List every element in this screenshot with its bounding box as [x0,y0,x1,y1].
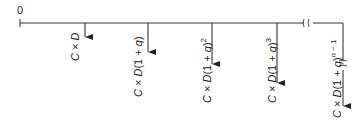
label-d: D [132,69,144,77]
label-c: C [69,53,81,61]
cashflow-label-1: C × D [70,33,81,61]
label-exponent: n − 1 [329,39,338,57]
cashflow-label-3: C × D(1 + q)2 [198,38,213,103]
timeline-svg [0,0,364,123]
cashflow-timeline-diagram: 0 C × D C × D(1 + q) C × D(1 + q)2 C × D… [0,0,364,123]
label-c: C [201,95,213,103]
label-exponent: 3 [264,38,273,42]
timeline-axis [20,19,343,27]
label-exponent: 2 [199,38,208,42]
label-d: D [266,75,278,83]
label-times: × [132,77,144,90]
cashflow-label-2: C × D(1 + q) [133,36,144,97]
label-times: × [331,98,343,111]
origin-label: 0 [17,4,23,16]
label-times: × [266,83,278,96]
label-c: C [132,89,144,97]
label-d: D [331,90,343,98]
label-d: D [201,75,213,83]
label-paren: (1 + q) [132,36,144,68]
cashflow-label-5: C × D(1 + q)n − 1 [328,39,343,118]
label-d: D [69,33,81,41]
cashflow-label-4: C × D(1 + q)3 [263,38,278,103]
label-times: × [201,83,213,96]
label-paren: (1 + q) [331,57,343,89]
label-c: C [266,95,278,103]
label-paren: (1 + q) [201,42,213,74]
label-c: C [331,110,343,118]
label-times: × [69,41,81,54]
label-paren: (1 + q) [266,42,278,74]
